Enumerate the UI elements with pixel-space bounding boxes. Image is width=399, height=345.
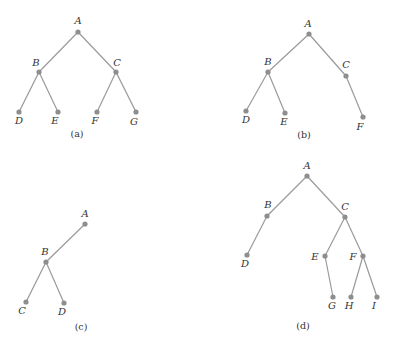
edge-a-b xyxy=(267,176,307,216)
edge-a-c xyxy=(309,34,346,76)
node-label-c: C xyxy=(113,57,121,68)
edge-f-i xyxy=(363,256,377,297)
edge-a-b xyxy=(39,32,78,72)
node-label-b: B xyxy=(40,246,48,257)
node-label-b: B xyxy=(263,199,271,210)
node-h xyxy=(348,294,353,299)
node-label-a: A xyxy=(303,18,311,29)
edge-b-d xyxy=(46,262,64,303)
node-i xyxy=(374,294,379,299)
edge-b-c xyxy=(26,262,46,302)
node-d xyxy=(244,252,249,257)
node-label-e: E xyxy=(279,116,288,127)
node-label-e: E xyxy=(310,251,319,262)
tree-a: ABCDEFG(a) xyxy=(14,15,139,139)
node-b xyxy=(264,213,269,218)
node-b xyxy=(265,69,270,74)
node-a xyxy=(304,173,309,178)
tree-c: ABCD(c) xyxy=(18,208,88,332)
edge-c-f xyxy=(346,76,363,117)
node-a xyxy=(306,31,311,36)
edge-b-e xyxy=(39,72,58,112)
node-label-c: C xyxy=(342,59,350,70)
node-f xyxy=(360,114,365,119)
node-label-g: G xyxy=(328,300,336,311)
node-c xyxy=(342,214,347,219)
node-label-i: I xyxy=(371,300,377,311)
node-label-c: C xyxy=(341,201,349,212)
node-b xyxy=(36,69,41,74)
caption-c: (c) xyxy=(75,321,88,332)
edge-e-g xyxy=(325,256,333,297)
node-label-c: C xyxy=(18,305,26,316)
node-label-d: D xyxy=(57,306,66,317)
node-c xyxy=(23,299,28,304)
node-e xyxy=(322,253,327,258)
node-e xyxy=(282,110,287,115)
edge-a-b xyxy=(46,224,85,262)
edge-a-c xyxy=(307,176,345,217)
node-label-g: G xyxy=(130,116,138,127)
edge-b-d xyxy=(246,72,268,111)
caption-b: (b) xyxy=(297,129,311,140)
node-label-a: A xyxy=(80,208,88,219)
node-label-f: F xyxy=(91,115,100,126)
node-d xyxy=(61,300,66,305)
node-label-e: E xyxy=(50,115,59,126)
node-label-h: H xyxy=(344,300,354,311)
node-label-f: F xyxy=(349,251,358,262)
node-a xyxy=(75,29,80,34)
node-e xyxy=(55,109,60,114)
edge-f-h xyxy=(351,256,363,297)
edge-a-c xyxy=(78,32,116,72)
edge-c-e xyxy=(325,217,345,256)
caption-d: (d) xyxy=(296,320,310,331)
node-c xyxy=(113,69,118,74)
edge-b-d xyxy=(247,216,267,255)
node-label-a: A xyxy=(302,160,310,171)
edge-c-f xyxy=(97,72,116,112)
edge-c-g xyxy=(116,72,136,112)
tree-d: ABCDEFGHI(d) xyxy=(240,160,380,331)
edge-b-e xyxy=(268,72,285,113)
node-d xyxy=(16,109,21,114)
node-d xyxy=(243,108,248,113)
node-f xyxy=(360,253,365,258)
node-g xyxy=(330,294,335,299)
node-a xyxy=(82,221,87,226)
node-label-a: A xyxy=(73,15,81,26)
node-f xyxy=(94,109,99,114)
caption-a: (a) xyxy=(70,128,83,139)
tree-diagrams-canvas: ABCDEFG(a) ABCDEF(b) ABCD(c) ABCDEFGHI(d… xyxy=(0,0,399,345)
node-b xyxy=(43,259,48,264)
node-g xyxy=(133,109,138,114)
tree-b: ABCDEF(b) xyxy=(241,18,366,140)
node-label-d: D xyxy=(240,258,249,269)
node-label-b: B xyxy=(263,56,271,67)
edge-b-d xyxy=(19,72,39,112)
node-label-d: D xyxy=(14,115,23,126)
node-c xyxy=(343,73,348,78)
node-label-b: B xyxy=(31,57,39,68)
edge-a-b xyxy=(268,34,309,72)
node-label-d: D xyxy=(241,114,250,125)
node-label-f: F xyxy=(356,121,365,132)
